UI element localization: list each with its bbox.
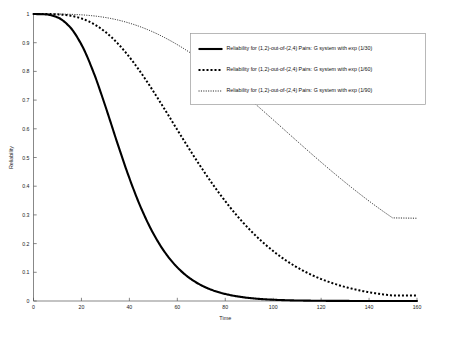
y-tick-label: 0.9	[22, 40, 29, 46]
y-tick-label: 0.8	[22, 68, 29, 74]
reliability-chart: 02040608010012014016000.10.20.30.40.50.6…	[0, 0, 450, 337]
y-tick-label: 0	[27, 298, 30, 304]
x-tick-label: 20	[79, 304, 85, 310]
x-tick-label: 80	[222, 304, 228, 310]
legend-item-label: Reliability for (1,2)-out-of-(2,4) Pairs…	[227, 66, 373, 72]
y-tick-label: 0.1	[22, 269, 29, 275]
y-tick-label: 1	[27, 11, 30, 17]
x-axis-title: Time	[219, 315, 231, 321]
y-tick-label: 0.7	[22, 97, 29, 103]
y-axis-title: Reliability	[8, 146, 14, 169]
x-tick-label: 40	[126, 304, 132, 310]
y-tick-label: 0.3	[22, 212, 29, 218]
x-tick-label: 160	[413, 304, 422, 310]
y-tick-label: 0.6	[22, 126, 29, 132]
figure-canvas: 02040608010012014016000.10.20.30.40.50.6…	[0, 0, 450, 337]
y-tick-label: 0.2	[22, 241, 29, 247]
chart-legend[interactable]: Reliability for (1,2)-out-of-(2,4) Pairs…	[191, 34, 426, 105]
x-tick-label: 0	[32, 304, 35, 310]
x-tick-label: 60	[174, 304, 180, 310]
x-tick-label: 100	[269, 304, 278, 310]
y-tick-label: 0.5	[22, 155, 29, 161]
legend-item-label: Reliability for (1,2)-out-of-(2,4) Pairs…	[227, 45, 373, 51]
legend-item-label: Reliability for (1,2)-out-of-(2,4) Pairs…	[227, 87, 373, 93]
x-tick-label: 120	[317, 304, 326, 310]
x-tick-label: 140	[365, 304, 374, 310]
y-tick-label: 0.4	[22, 183, 29, 189]
